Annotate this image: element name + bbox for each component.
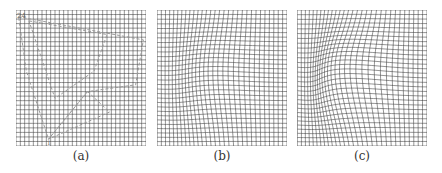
caption-a: (a) bbox=[61, 149, 101, 163]
svg-text:1: 1 bbox=[47, 139, 51, 146]
caption-b: (b) bbox=[202, 149, 242, 163]
svg-text:24: 24 bbox=[17, 12, 26, 20]
panel-a: 241 bbox=[16, 10, 146, 146]
grid-deformed-strong bbox=[297, 10, 427, 146]
grid-undeformed: 241 bbox=[16, 10, 146, 146]
panel-b bbox=[157, 10, 287, 146]
caption-c: (c) bbox=[342, 149, 382, 163]
grid-deformed-moderate bbox=[157, 10, 287, 146]
panel-c bbox=[297, 10, 427, 146]
